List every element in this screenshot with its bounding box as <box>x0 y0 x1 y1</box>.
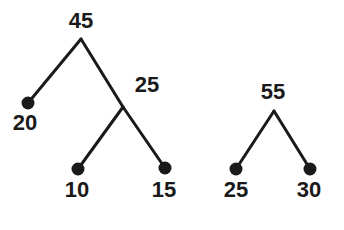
node-label-30-right-tree: 30 <box>297 179 321 201</box>
tree-diagram-canvas: 4520251015552530 <box>0 0 344 230</box>
leaf-node-dot <box>22 97 35 110</box>
node-label-55-right-tree: 55 <box>261 81 285 103</box>
node-label-25-left-tree: 25 <box>135 74 159 96</box>
leaf-dots-layer <box>22 97 317 176</box>
edges-layer <box>28 39 310 169</box>
tree-edge <box>123 107 165 168</box>
tree-edge <box>81 39 123 107</box>
node-label-20-left-tree: 20 <box>13 112 37 134</box>
leaf-node-dot <box>159 162 172 175</box>
node-label-45-left-tree: 45 <box>69 10 93 32</box>
leaf-node-dot <box>304 163 317 176</box>
tree-edge <box>28 39 81 103</box>
tree-edge <box>236 111 274 169</box>
node-label-25-right-tree: 25 <box>224 179 248 201</box>
leaf-node-dot <box>72 163 85 176</box>
node-label-15-left-tree: 15 <box>152 179 176 201</box>
tree-edge <box>78 107 123 169</box>
tree-edge <box>274 111 310 169</box>
node-label-10-left-tree: 10 <box>65 179 89 201</box>
leaf-node-dot <box>230 163 243 176</box>
